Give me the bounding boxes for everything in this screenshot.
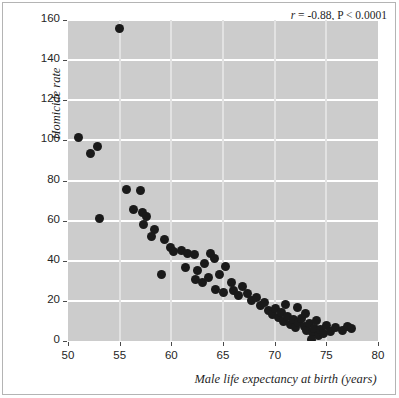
data-point [74,133,83,142]
data-point [95,214,104,223]
x-tick-label-70: 70 [255,349,295,361]
x-tick-mark-70 [275,342,276,346]
x-tick-label-80: 80 [358,349,398,361]
data-point [93,142,102,151]
y-tick-label-20: 20 [26,293,60,305]
x-tick-mark-80 [378,342,379,346]
y-tick-mark-0 [63,341,67,342]
x-tick-mark-55 [120,342,121,346]
y-tick-mark-80 [63,181,67,182]
y-tick-mark-160 [63,20,67,21]
x-tick-label-55: 55 [100,349,140,361]
data-point [312,316,321,325]
x-tick-label-65: 65 [203,349,243,361]
data-point [122,185,131,194]
data-point [347,324,356,333]
y-tick-mark-40 [63,261,67,262]
data-point [136,186,145,195]
data-point [307,335,316,341]
y-tick-label-140: 140 [26,52,60,64]
y-tick-mark-140 [63,60,67,61]
y-tick-mark-120 [63,100,67,101]
data-point [204,273,213,282]
data-point [281,300,290,309]
x-axis-title: Male life expectancy at birth (years) [178,372,393,387]
scatter-plot-figure: r = -0.88, P < 0.0001 Homicide rate Male… [0,0,399,398]
data-point [139,220,148,229]
data-point [221,262,230,271]
y-tick-label-100: 100 [26,132,60,144]
data-point [169,247,178,256]
data-point [157,270,166,279]
y-tick-mark-60 [63,221,67,222]
y-tick-label-160: 160 [26,12,60,24]
x-tick-mark-60 [171,342,172,346]
x-tick-mark-75 [326,342,327,346]
gridline-x-55 [119,20,121,341]
data-point [193,266,202,275]
y-tick-label-0: 0 [26,333,60,345]
data-point [301,309,310,318]
x-tick-label-75: 75 [306,349,346,361]
x-tick-mark-50 [68,342,69,346]
data-point [129,205,138,214]
gridline-x-75 [325,20,327,341]
y-tick-mark-100 [63,140,67,141]
data-point [219,288,228,297]
x-tick-label-50: 50 [48,349,88,361]
y-tick-label-120: 120 [26,92,60,104]
data-point [210,254,219,263]
gridline-x-70 [274,20,276,341]
y-tick-mark-20 [63,301,67,302]
x-tick-label-60: 60 [151,349,191,361]
data-point [200,259,209,268]
gridline-x-60 [170,20,172,341]
y-tick-label-40: 40 [26,253,60,265]
data-point [190,250,199,259]
y-tick-label-60: 60 [26,213,60,225]
x-tick-mark-65 [223,342,224,346]
data-point [147,232,156,241]
data-point [86,149,95,158]
data-point [181,263,190,272]
plot-area [68,20,378,341]
data-point [115,24,124,33]
y-tick-label-80: 80 [26,173,60,185]
